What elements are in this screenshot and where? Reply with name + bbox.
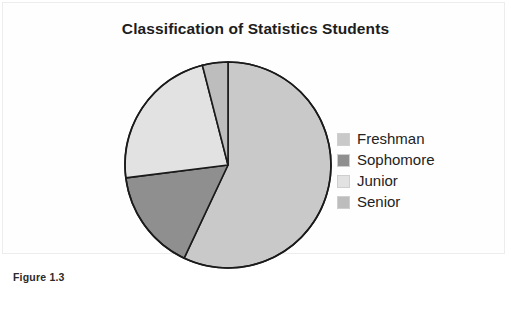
pie-chart [121,58,335,272]
legend-swatch-sophomore [337,154,350,167]
legend-label: Sophomore [357,152,435,168]
pie-slice-group [125,62,331,268]
figure-caption: Figure 1.3 [13,271,65,283]
legend-item-freshman[interactable]: Freshman [337,129,497,149]
legend-item-junior[interactable]: Junior [337,171,497,191]
legend-label: Junior [357,173,398,189]
legend-label: Freshman [357,131,425,147]
legend-swatch-senior [337,196,350,209]
figure-container: Classification of Statistics Students Fr… [0,0,511,310]
legend-swatch-freshman [337,133,350,146]
legend-swatch-junior [337,175,350,188]
legend-label: Senior [357,194,400,210]
legend-item-senior[interactable]: Senior [337,192,497,212]
pie-chart-svg [121,58,335,272]
legend-item-sophomore[interactable]: Sophomore [337,150,497,170]
chart-legend: FreshmanSophomoreJuniorSenior [337,129,497,213]
chart-title: Classification of Statistics Students [0,20,511,38]
